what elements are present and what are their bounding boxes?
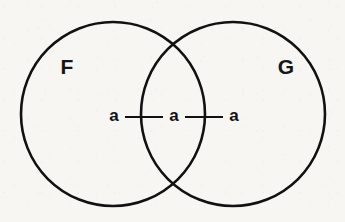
set-label-f: F xyxy=(61,55,74,78)
element-label-a-right: a xyxy=(229,106,239,125)
venn-diagram-canvas: F G a a a xyxy=(0,0,345,222)
venn-diagram-figure: F G a a a xyxy=(0,0,345,222)
element-label-a-left: a xyxy=(109,106,119,125)
set-label-g: G xyxy=(278,55,294,78)
element-label-a-middle: a xyxy=(169,106,179,125)
